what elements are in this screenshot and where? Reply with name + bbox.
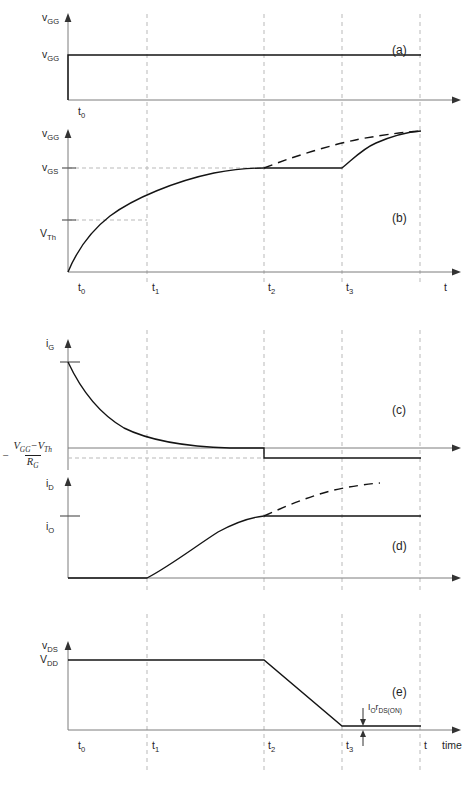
panel-e-curve: [68, 660, 421, 726]
panel-e-tag: (e): [392, 686, 407, 698]
panel-b-level-vth: VTh: [40, 228, 56, 242]
panel-b-axes: [62, 129, 461, 276]
panel-b-tick-t: t: [444, 282, 447, 293]
panel-e-tick-t3: t3: [346, 740, 353, 754]
panel-b-tag: (b): [392, 212, 407, 224]
panel-e-tick-t0: t0: [78, 740, 85, 754]
panel-a-axes: [65, 13, 461, 104]
panel-a-axis-label: vGG: [42, 12, 59, 26]
panel-b-tick-t2: t2: [268, 282, 275, 296]
panel-d-axis-label: iD: [46, 478, 54, 492]
panel-c-negative-level-label: − VGG−VTh RG: [2, 441, 54, 469]
panel-b-tick-t0: t0: [78, 282, 85, 296]
panel-e-tick-t2: t2: [268, 740, 275, 754]
panel-b-tick-t1: t1: [152, 282, 159, 296]
panel-d-axes: [60, 477, 461, 582]
on-state-voltage-annotation: IOrDS(ON): [368, 703, 402, 714]
panel-a-curve: [68, 55, 421, 100]
panel-c-tag: (c): [392, 404, 406, 416]
panel-b-tick-t3: t3: [346, 282, 353, 296]
panel-e-level-label: VDD: [40, 654, 58, 668]
panel-e-tick-t1: t1: [152, 740, 159, 754]
time-axis-word: time: [442, 740, 462, 751]
panel-e-axis-label: vDS: [42, 640, 58, 654]
fraction-denominator: RG: [25, 455, 41, 470]
panel-b-axis-label: vGG: [42, 128, 59, 142]
panel-d-curves: [68, 483, 421, 578]
waveform-figure: vGG vGG (a) t0 vGG vGS VTh (b) t0 t1 t2 …: [0, 0, 475, 792]
panel-a-tick-t0: t0: [78, 106, 85, 120]
panel-a-tag: (a): [392, 44, 407, 56]
panel-b-level-vgs: vGS: [42, 162, 58, 176]
panel-b-curves: [68, 131, 421, 272]
fraction-numerator: VGG−VTh: [11, 441, 53, 455]
grid-lines: [147, 14, 420, 770]
panel-c-axis-label: iG: [46, 338, 54, 352]
panel-d-level-label: iO: [46, 521, 54, 535]
on-state-annotation-arrows: [360, 708, 366, 746]
panel-e-tick-t: t: [424, 740, 427, 751]
waveform-canvas: [0, 0, 475, 792]
panel-d-tag: (d): [392, 540, 407, 552]
panel-c-curve: [68, 362, 421, 458]
minus-sign: −: [2, 450, 11, 461]
panel-a-level-label: vGG: [42, 49, 59, 63]
